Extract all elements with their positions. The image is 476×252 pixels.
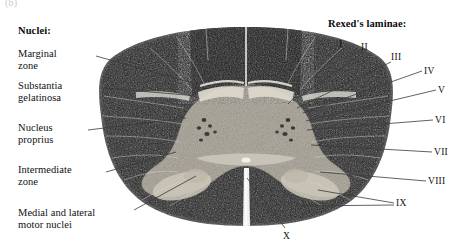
nucleus-label-4: Medial and lateral motor nuclei	[18, 207, 95, 230]
nucleus-label-2: Nucleus proprius	[18, 122, 53, 145]
nuclei-heading: Nuclei:	[18, 25, 51, 36]
nucleus-label-1: Substantia gelatinosa	[18, 80, 62, 103]
lamina-label-II: II	[361, 42, 368, 52]
lamina-label-VII: VII	[434, 147, 448, 157]
figure-root: (b) Nuclei: Rexed's laminae: Marginal zo…	[0, 0, 476, 252]
lamina-label-VI: VI	[435, 115, 446, 125]
lamina-label-X: X	[283, 231, 290, 241]
lamina-label-V: V	[438, 85, 445, 95]
laminae-heading: Rexed's laminae:	[328, 18, 406, 29]
lamina-label-VIII: VIII	[428, 176, 446, 186]
lamina-label-IV: IV	[424, 66, 435, 76]
lamina-label-I: I	[339, 39, 342, 49]
lamina-label-IX: IX	[396, 198, 407, 208]
specimen-body	[90, 20, 400, 235]
nucleus-label-3: Intermediate zone	[18, 164, 72, 187]
nucleus-label-0: Marginal zone	[18, 48, 57, 71]
figure-tag: (b)	[5, 0, 17, 8]
lamina-label-III: III	[391, 52, 401, 62]
